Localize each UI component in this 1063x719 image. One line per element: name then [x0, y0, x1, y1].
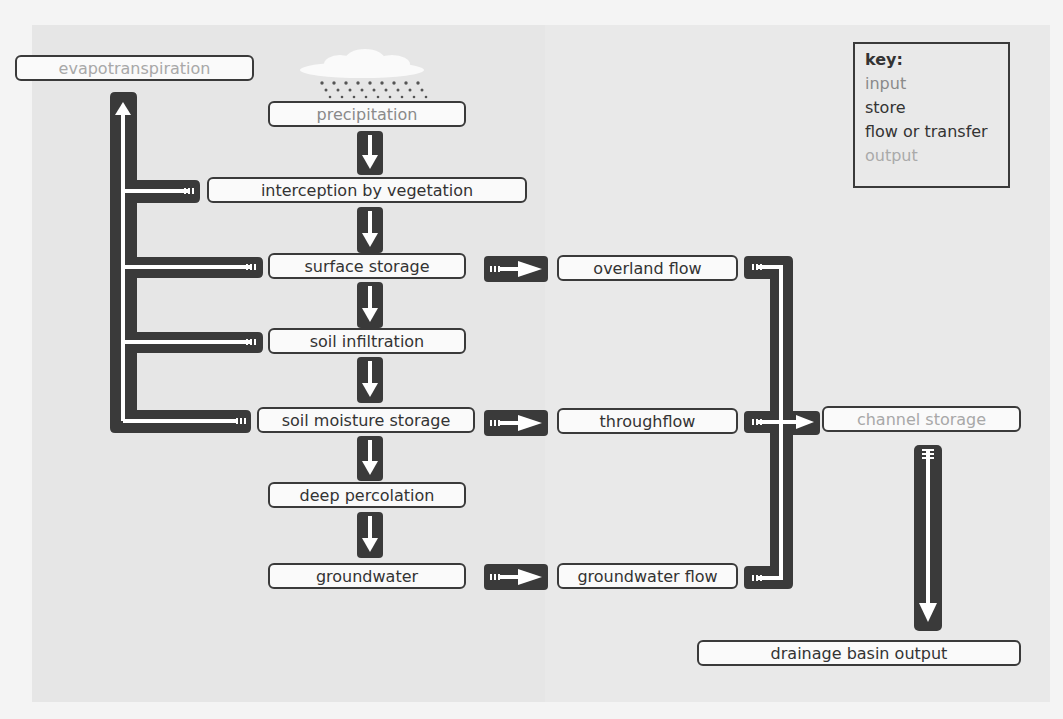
node-surface-storage: surface storage: [268, 253, 466, 279]
evapotranspiration-arrow: [110, 92, 263, 433]
node-groundwater: groundwater: [268, 563, 466, 589]
node-interception: interception by vegetation: [207, 177, 527, 203]
node-overland-flow: overland flow: [557, 255, 738, 281]
rain-icon: [320, 81, 427, 98]
key-store: store: [865, 96, 998, 120]
node-drainage-basin-output: drainage basin output: [697, 640, 1021, 666]
node-precipitation: precipitation: [268, 101, 466, 127]
key-output: output: [865, 144, 998, 168]
node-soil-infiltration: soil infiltration: [268, 328, 466, 354]
key-title: key:: [865, 48, 998, 72]
key-input: input: [865, 72, 998, 96]
node-evapotranspiration: evapotranspiration: [15, 55, 254, 81]
legend-key: key: input store flow or transfer output: [853, 42, 1010, 188]
right-arrows: [484, 256, 548, 590]
key-flow: flow or transfer: [865, 120, 998, 144]
node-groundwater-flow: groundwater flow: [557, 563, 738, 589]
drainage-arrow: [914, 445, 942, 631]
node-throughflow: throughflow: [557, 408, 738, 434]
channel-collector-arrow: [744, 256, 820, 589]
node-soil-moisture-storage: soil moisture storage: [257, 407, 475, 433]
node-channel-storage: channel storage: [822, 406, 1021, 432]
cloud-icon: [300, 49, 424, 78]
node-deep-percolation: deep percolation: [268, 482, 466, 508]
